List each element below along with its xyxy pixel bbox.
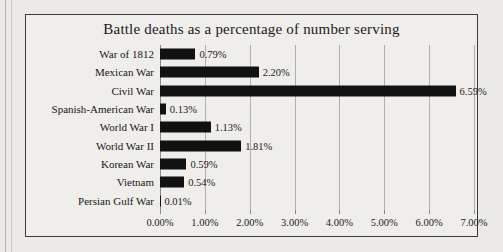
x-tick-mark	[205, 210, 206, 214]
plot-wrapper: War of 1812Mexican WarCivil WarSpanish-A…	[26, 45, 477, 235]
x-tick-mark	[384, 210, 385, 214]
page-edge-line-secondary	[11, 0, 12, 252]
chart-title: Battle deaths as a percentage of number …	[26, 21, 477, 38]
bar-value-label: 2.20%	[263, 67, 290, 78]
category-label-row: World War I	[26, 118, 160, 136]
category-label-row: World War II	[26, 137, 160, 155]
plot-area: 0.00%1.00%2.00%3.00%4.00%5.00%6.00%7.00%…	[160, 45, 474, 210]
bar-value-label: 0.54%	[188, 177, 215, 188]
category-label: Vietnam	[117, 176, 154, 188]
bar-row: 2.20%	[160, 63, 474, 81]
chart-frame: Battle deaths as a percentage of number …	[25, 14, 478, 237]
category-label: World War I	[100, 121, 154, 133]
gridline	[474, 45, 475, 210]
category-label-row: Vietnam	[26, 173, 160, 191]
bar[interactable]	[160, 140, 241, 151]
x-tick-mark	[429, 210, 430, 214]
bar-row: 0.79%	[160, 45, 474, 63]
category-label: Spanish-American War	[52, 103, 154, 115]
bar[interactable]	[160, 85, 456, 96]
bar-value-label: 0.59%	[190, 159, 217, 170]
bar-value-label: 0.01%	[164, 195, 191, 206]
x-tick-mark	[250, 210, 251, 214]
bar-row: 0.54%	[160, 173, 474, 191]
bar[interactable]	[160, 49, 195, 60]
bar[interactable]	[160, 67, 259, 78]
bar[interactable]	[160, 159, 186, 170]
category-label: Mexican War	[95, 66, 154, 78]
page-edge-line	[5, 0, 6, 252]
x-tick-mark	[474, 210, 475, 214]
bar-row: 0.13%	[160, 100, 474, 118]
category-label-row: Persian Gulf War	[26, 192, 160, 210]
category-label: Civil War	[111, 85, 154, 97]
bar[interactable]	[160, 104, 166, 115]
x-tick-mark	[339, 210, 340, 214]
bar-row: 6.59%	[160, 82, 474, 100]
bar-row: 0.01%	[160, 192, 474, 210]
bar-value-label: 6.59%	[460, 85, 487, 96]
category-label-row: Civil War	[26, 82, 160, 100]
category-label-row: Korean War	[26, 155, 160, 173]
bar-row: 1.13%	[160, 118, 474, 136]
bar-value-label: 1.13%	[215, 122, 242, 133]
x-tick-mark	[295, 210, 296, 214]
category-label: Korean War	[101, 158, 154, 170]
bar-row: 1.81%	[160, 137, 474, 155]
category-label-row: Mexican War	[26, 63, 160, 81]
category-label: War of 1812	[99, 48, 154, 60]
bar[interactable]	[160, 177, 184, 188]
category-label-row: Spanish-American War	[26, 100, 160, 118]
bar-row: 0.59%	[160, 155, 474, 173]
x-tick-label: 7.00%	[444, 217, 503, 228]
category-label: World War II	[96, 140, 154, 152]
bar-value-label: 0.79%	[199, 49, 226, 60]
x-tick-mark	[160, 210, 161, 214]
bar-value-label: 1.81%	[245, 140, 272, 151]
category-label-row: War of 1812	[26, 45, 160, 63]
category-label: Persian Gulf War	[78, 195, 154, 207]
bar-value-label: 0.13%	[170, 104, 197, 115]
bar[interactable]	[160, 122, 211, 133]
category-axis-labels: War of 1812Mexican WarCivil WarSpanish-A…	[26, 45, 160, 210]
